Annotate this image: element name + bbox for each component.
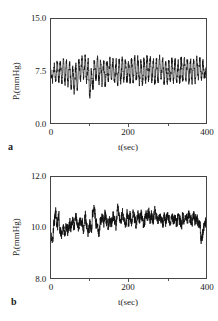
panel-b-label: b <box>11 296 17 307</box>
panel-b: 12.0 10.0 8.0 Pt(mmHg) 0 200 400 t(sec) … <box>0 160 218 321</box>
panel-b-xtick-400: 400 <box>192 282 218 292</box>
panel-a-y-axis-title: Pt(mmHg) <box>11 62 21 100</box>
panel-a-xtick-mark-q3 <box>168 124 169 126</box>
panel-b-xtick-200: 200 <box>113 282 143 292</box>
panel-b-xtick-mark-q3 <box>168 279 169 281</box>
panel-a-xtick-400: 400 <box>192 127 218 137</box>
panel-b-xtick-mark-q1 <box>89 279 90 281</box>
panel-b-y-axis-title: Pt(mmHg) <box>11 218 21 256</box>
panel-a-ytick-max: 15.0 <box>12 13 46 23</box>
panel-a-xtick-0: 0 <box>36 127 66 137</box>
panel-b-plot-area <box>50 176 207 279</box>
panel-b-trace-svg <box>51 177 206 278</box>
panel-b-ytick-max: 12.0 <box>12 171 46 181</box>
panel-a-plot-area <box>50 18 207 124</box>
panel-a-label: a <box>8 141 13 152</box>
panel-b-x-axis-title: t(sec) <box>83 297 173 307</box>
panel-a-xtick-200: 200 <box>113 127 143 137</box>
panel-a-trace-svg <box>51 19 206 123</box>
panel-a-xtick-mark-q1 <box>89 124 90 126</box>
panel-b-xtick-0: 0 <box>36 282 66 292</box>
panel-a: 15.0 7.5 0.0 Pt(mmHg) 0 200 400 t(sec) a <box>0 0 218 160</box>
panel-a-x-axis-title: t(sec) <box>83 142 173 152</box>
